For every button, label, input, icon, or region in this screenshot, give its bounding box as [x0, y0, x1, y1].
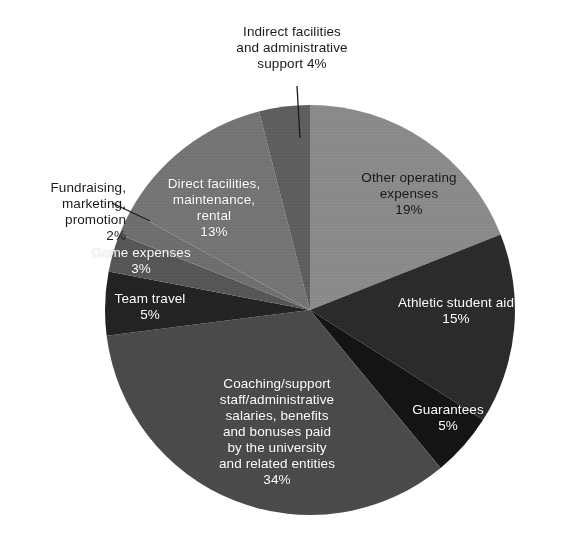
pie-chart: Other operating expenses 19% Athletic st… [0, 0, 568, 558]
pie-slice-group [105, 105, 515, 515]
pie-chart-canvas [0, 0, 568, 558]
